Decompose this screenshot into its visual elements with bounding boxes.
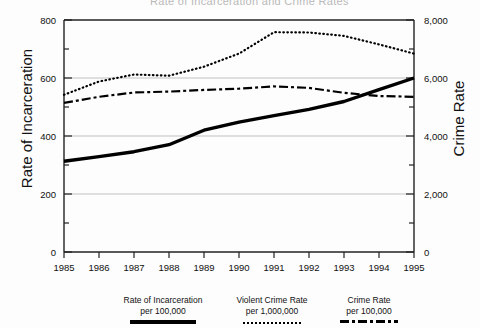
legend-swatch-dashdot <box>340 320 398 323</box>
y-right-ticks <box>406 20 414 252</box>
series-line-dotted <box>64 32 414 95</box>
legend-item-crime-rate: Crime Rate per 100,000 <box>326 295 412 323</box>
legend-label-line2: per 100,000 <box>326 306 412 317</box>
chart-figure: Rate of Incarceration and Crime Rates Ra… <box>0 0 480 328</box>
legend-swatch-solid <box>130 320 196 328</box>
legend-item-incarceration: Rate of Incarceration per 100,000 <box>108 295 218 328</box>
legend-item-violent-crime: Violent Crime Rate per 1,000,000 <box>222 295 322 328</box>
legend-label-line1: Violent Crime Rate <box>222 295 322 306</box>
plot-canvas <box>0 0 480 328</box>
data-series-layer <box>64 32 414 161</box>
series-line-solid <box>64 78 414 161</box>
x-axis-ticks <box>64 252 414 258</box>
legend-label-line2: per 1,000,000 <box>222 306 322 317</box>
legend-swatch-dotted <box>243 322 301 328</box>
legend-label-line2: per 100,000 <box>108 306 218 317</box>
legend-label-line1: Rate of Incarceration <box>108 295 218 306</box>
y-left-ticks <box>64 20 72 252</box>
chart-legend: Rate of Incarceration per 100,000 Violen… <box>0 285 480 328</box>
legend-label-line1: Crime Rate <box>326 295 412 306</box>
